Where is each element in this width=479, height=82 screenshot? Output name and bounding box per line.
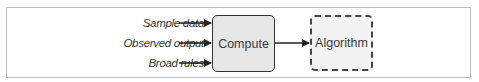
compute-label: Compute bbox=[218, 37, 269, 51]
algorithm-box: Algorithm bbox=[310, 15, 373, 71]
compute-box: Compute bbox=[212, 15, 275, 72]
algorithm-label: Algorithm bbox=[315, 36, 368, 50]
